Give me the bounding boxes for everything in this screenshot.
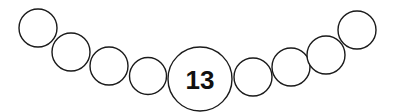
center-bead-label: 13	[186, 65, 215, 95]
bead-chain-diagram: 13	[0, 0, 396, 112]
bead-circle	[272, 48, 310, 86]
bead-circle	[90, 47, 128, 85]
bead-group	[19, 9, 376, 111]
bead-circle	[234, 58, 272, 96]
bead-circle	[130, 58, 167, 95]
bead-circle	[52, 33, 90, 71]
bead-circle	[19, 9, 57, 47]
bead-circle	[338, 11, 376, 49]
bead-circle	[307, 36, 345, 74]
